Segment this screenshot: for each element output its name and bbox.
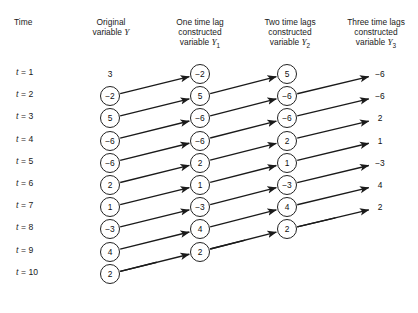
lag-arrow bbox=[120, 143, 189, 160]
value-node-circled: −6 bbox=[190, 131, 210, 151]
value-node-plain: −6 bbox=[368, 67, 392, 81]
lag-arrow bbox=[120, 99, 189, 116]
value-node-plain: 3 bbox=[98, 67, 122, 81]
lag-arrow bbox=[120, 210, 189, 227]
lag-construction-figure: Time Original variable Y One time lag co… bbox=[0, 0, 418, 313]
value-node-circled: 4 bbox=[100, 242, 120, 262]
value-node-circled: −6 bbox=[100, 131, 120, 151]
lag-arrow-stub bbox=[210, 240, 245, 249]
lag-arrow bbox=[120, 77, 189, 94]
value-node-circled: 2 bbox=[190, 242, 210, 262]
lag-arrow bbox=[120, 232, 189, 249]
value-node-plain: −3 bbox=[368, 156, 392, 170]
lag-arrow bbox=[297, 165, 369, 182]
value-node-circled: 2 bbox=[277, 131, 297, 151]
lag-arrow bbox=[297, 77, 369, 94]
value-node-circled: −2 bbox=[190, 64, 210, 84]
lag-arrow bbox=[210, 77, 276, 94]
lag-arrow bbox=[210, 210, 276, 227]
lag-arrow-stub bbox=[297, 218, 335, 227]
lag-arrow-stub bbox=[120, 262, 157, 271]
lag-arrows bbox=[0, 0, 418, 313]
lag-arrow bbox=[210, 121, 276, 138]
value-node-circled: 2 bbox=[100, 175, 120, 195]
value-node-circled: 2 bbox=[190, 153, 210, 173]
value-node-plain: 1 bbox=[368, 134, 392, 148]
lag-arrow bbox=[210, 166, 276, 183]
lag-arrow bbox=[120, 121, 189, 138]
lag-arrow bbox=[297, 99, 369, 116]
value-node-circled: 2 bbox=[100, 264, 120, 284]
value-node-circled: 1 bbox=[277, 153, 297, 173]
lag-arrow bbox=[210, 99, 276, 116]
value-node-circled: −3 bbox=[277, 175, 297, 195]
lag-arrow bbox=[210, 188, 276, 205]
lag-arrow bbox=[210, 143, 276, 160]
lag-arrow bbox=[120, 188, 189, 205]
value-node-plain: −6 bbox=[368, 89, 392, 103]
lag-arrow bbox=[120, 165, 189, 182]
lag-arrow bbox=[297, 121, 369, 138]
value-node-circled: 5 bbox=[277, 64, 297, 84]
value-node-plain: 4 bbox=[368, 178, 392, 192]
value-node-plain: 2 bbox=[368, 200, 392, 214]
value-node-circled: 1 bbox=[190, 175, 210, 195]
value-node-plain: 2 bbox=[368, 111, 392, 125]
lag-arrow bbox=[297, 188, 369, 205]
lag-arrow bbox=[297, 143, 369, 160]
value-node-circled: −6 bbox=[100, 153, 120, 173]
